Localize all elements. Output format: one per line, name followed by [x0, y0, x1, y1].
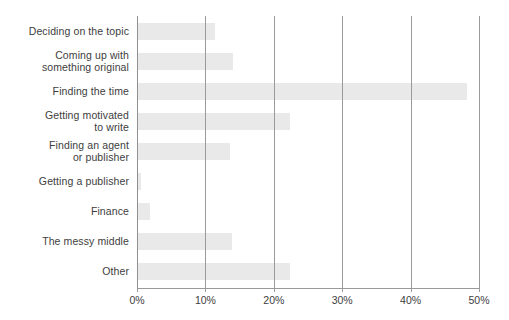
bar: [137, 113, 290, 130]
gridline-40pct: [411, 16, 412, 288]
category-label-line: The messy middle: [42, 235, 129, 248]
bar-row: [137, 76, 479, 106]
category-label-line: Deciding on the topic: [29, 25, 129, 38]
gridline-20pct: [274, 16, 275, 288]
bar: [137, 53, 233, 70]
category-label: Getting a publisher: [0, 166, 129, 196]
bar-row: [137, 226, 479, 256]
x-tick-label: 40%: [400, 294, 421, 306]
bar-row: [137, 256, 479, 286]
bar-rows: [137, 16, 479, 288]
category-label-line: Finding the time: [53, 85, 129, 98]
x-tick-label: 0%: [129, 294, 144, 306]
category-label: Finance: [0, 196, 129, 226]
category-label-line: Getting motivated: [45, 109, 129, 122]
tick-20pct: [274, 288, 275, 292]
x-tick-label: 50%: [468, 294, 489, 306]
x-axis-tick-labels: 0%10%20%30%40%50%: [0, 294, 509, 312]
tick-50pct: [479, 288, 480, 292]
bar: [137, 23, 215, 40]
category-label: Getting motivatedto write: [0, 106, 129, 136]
bar-row: [137, 16, 479, 46]
category-label-line: Finding an agent: [49, 139, 129, 152]
bar: [137, 143, 230, 160]
category-label: The messy middle: [0, 226, 129, 256]
bar: [137, 203, 150, 220]
bar: [137, 83, 467, 100]
category-label-line: Coming up with: [42, 49, 129, 62]
category-axis-labels: Deciding on the topicComing up withsomet…: [0, 16, 129, 288]
bar-row: [137, 106, 479, 136]
bar-row: [137, 196, 479, 226]
tick-10pct: [205, 288, 206, 292]
gridline-0pct: [137, 16, 138, 288]
category-label: Deciding on the topic: [0, 16, 129, 46]
bar-row: [137, 136, 479, 166]
bar: [137, 233, 232, 250]
category-label-line: something original: [42, 61, 129, 74]
x-tick-label: 10%: [195, 294, 216, 306]
category-label: Finding the time: [0, 76, 129, 106]
bar-row: [137, 166, 479, 196]
category-label: Finding an agentor publisher: [0, 136, 129, 166]
tick-40pct: [411, 288, 412, 292]
category-label-line: Getting a publisher: [39, 175, 129, 188]
category-label: Coming up withsomething original: [0, 46, 129, 76]
plot-area: [137, 16, 479, 288]
x-axis-line: [137, 288, 480, 289]
category-label: Other: [0, 256, 129, 286]
gridline-10pct: [205, 16, 206, 288]
category-label-line: to write: [45, 121, 129, 134]
x-tick-label: 20%: [263, 294, 284, 306]
category-label-line: Other: [102, 265, 129, 278]
x-tick-label: 30%: [332, 294, 353, 306]
gridline-50pct: [479, 16, 480, 288]
category-label-line: or publisher: [49, 151, 129, 164]
category-label-line: Finance: [91, 205, 129, 218]
horizontal-bar-chart: Deciding on the topicComing up withsomet…: [0, 0, 509, 320]
tick-0pct: [137, 288, 138, 292]
bar-row: [137, 46, 479, 76]
gridline-30pct: [342, 16, 343, 288]
tick-30pct: [342, 288, 343, 292]
bar: [137, 263, 290, 280]
